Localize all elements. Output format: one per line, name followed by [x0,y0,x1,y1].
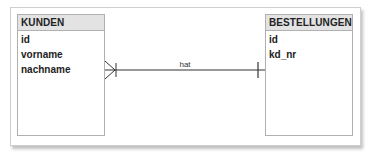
diagram-canvas: KUNDEN id vorname nachname BESTELLUNGEN … [0,0,369,153]
relationship-connector [0,0,369,153]
relationship-label: hat [170,60,200,69]
